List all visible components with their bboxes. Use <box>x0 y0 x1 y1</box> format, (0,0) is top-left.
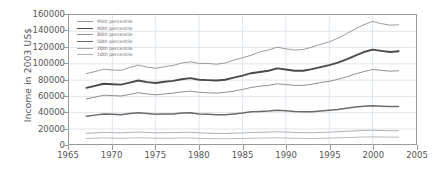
x-axis-tick-label: 1980 <box>188 150 210 160</box>
legend-item: 90th percentile <box>77 26 133 32</box>
legend-swatch <box>77 21 93 22</box>
legend-item: 20th percentile <box>77 45 133 51</box>
x-axis-tick-label: 2005 <box>406 150 428 160</box>
x-axis-tick-label: 1985 <box>232 150 254 160</box>
income-percentile-chart: Income in 2003 US$ 020000400006000080000… <box>0 0 433 181</box>
series-line <box>86 137 398 139</box>
x-axis-tick-mark <box>330 145 331 150</box>
legend-item: 80th percentile <box>77 32 133 38</box>
legend-label: 50th percentile <box>97 39 133 44</box>
x-axis-tick-mark <box>417 145 418 150</box>
x-axis-tick-mark <box>373 145 374 150</box>
x-axis-tick-label: 1990 <box>275 150 297 160</box>
legend-swatch <box>77 54 93 55</box>
legend-item: 10th percentile <box>77 52 133 58</box>
legend-swatch <box>77 28 93 29</box>
legend-item: 95th percentile <box>77 19 133 25</box>
x-axis-tick-mark <box>243 145 244 150</box>
series-line <box>86 22 398 74</box>
y-axis-tick-label: 60000 <box>38 91 65 101</box>
y-axis-tick-label: 120000 <box>33 42 65 52</box>
x-axis-tick-mark <box>286 145 287 150</box>
y-axis-title: Income in 2003 US$ <box>23 5 33 145</box>
x-axis-tick-label: 2000 <box>363 150 385 160</box>
series-line <box>86 70 398 99</box>
legend-swatch <box>77 48 93 49</box>
series-line <box>86 50 398 88</box>
legend-label: 10th percentile <box>97 52 133 57</box>
x-axis-tick-mark <box>68 145 69 150</box>
legend-label: 20th percentile <box>97 46 133 51</box>
legend-label: 95th percentile <box>97 19 133 24</box>
legend-swatch <box>77 34 93 35</box>
y-axis-tick-label: 160000 <box>33 9 65 19</box>
legend-label: 90th percentile <box>97 26 133 31</box>
x-axis-tick-mark <box>199 145 200 150</box>
y-axis-tick-label: 40000 <box>38 107 65 117</box>
legend: 95th percentile90th percentile80th perce… <box>77 19 133 58</box>
x-axis-tick-mark <box>112 145 113 150</box>
legend-label: 80th percentile <box>97 32 133 37</box>
y-axis-tick-label: 140000 <box>33 25 65 35</box>
legend-swatch <box>77 41 93 42</box>
series-line <box>86 106 398 117</box>
x-axis-tick-mark <box>155 145 156 150</box>
x-axis-tick-label: 1965 <box>57 150 79 160</box>
legend-item: 50th percentile <box>77 39 133 45</box>
y-axis-tick-label: 100000 <box>33 58 65 68</box>
y-axis-tick-label: 20000 <box>38 124 65 134</box>
x-axis-tick-label: 1995 <box>319 150 341 160</box>
x-axis-tick-label: 1970 <box>101 150 123 160</box>
x-axis-tick-label: 1975 <box>144 150 166 160</box>
series-line <box>86 130 398 133</box>
y-axis-tick-label: 80000 <box>38 75 65 85</box>
